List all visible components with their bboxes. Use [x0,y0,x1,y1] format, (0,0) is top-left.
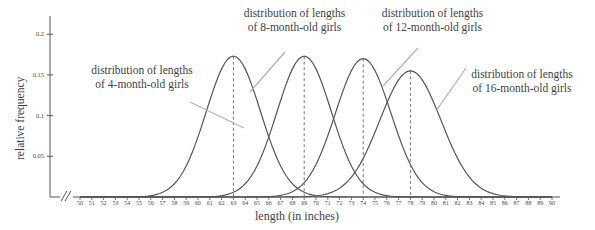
chart-figure: relative frequency length (in inches) di… [0,0,595,230]
x-axis-label: length (in inches) [255,209,339,224]
x-tick-label: 90 [543,200,561,206]
chart-canvas [0,0,595,230]
y-tick-label: 0.05 [10,152,44,159]
y-tick-label: 0.15 [10,71,44,78]
annotation-4month: distribution of lengths of 4-month-old g… [72,64,212,91]
annotation-8month: distribution of lengths of 8-month-old g… [222,7,367,34]
leader-line-4month [190,102,244,128]
mean-dashed-lines [233,56,410,197]
axes-group [50,16,560,203]
annotation-16month: distribution of lengths of 16-month-old … [452,68,592,95]
leader-line-12month [383,48,418,86]
annotation-12month: distribution of lengths of 12-month-old … [360,7,505,34]
y-tick-label: 0.2 [10,30,44,37]
leader-line-8month [250,52,285,92]
leader-lines [190,48,466,128]
y-tick-label: 0.1 [10,112,44,119]
